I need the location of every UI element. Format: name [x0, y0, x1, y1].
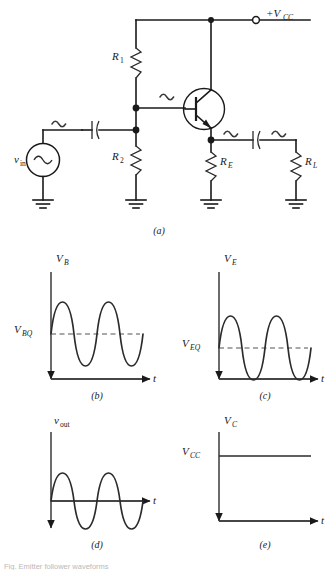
- rl-label-sub: L: [312, 161, 317, 170]
- r2-label: R: [111, 150, 119, 162]
- r2-label-sub: 2: [120, 156, 124, 165]
- input-source-label: v: [14, 153, 19, 165]
- supply-label-plus: +V: [266, 7, 281, 19]
- re-symbol: [206, 152, 216, 181]
- graph-c: V E V EQ t (c): [182, 252, 325, 402]
- panel-label-d: (d): [91, 539, 103, 551]
- graph-b-xlabel: t: [153, 372, 157, 384]
- input-source-label-sub: in: [20, 159, 26, 168]
- ground-re: [201, 200, 221, 208]
- rl-label: R: [304, 155, 312, 167]
- r1-label-sub: 1: [120, 56, 124, 65]
- graph-e-baseline-label: V: [182, 445, 190, 457]
- supply-node-dot: [208, 17, 214, 23]
- graph-d-ylabel: v: [54, 414, 59, 426]
- ac-marker-base-icon: [160, 94, 174, 100]
- panel-label-e: (e): [259, 539, 271, 551]
- graph-d-ylabel-sub: out: [60, 420, 71, 429]
- graph-b-baseline-label-sub: BQ: [22, 329, 33, 338]
- rl-symbol: [291, 152, 301, 181]
- supply-open-terminal[interactable]: [253, 17, 260, 24]
- ground-r2: [126, 200, 146, 208]
- figure-root: R 1 +V CC: [0, 0, 332, 570]
- graph-e: V C V CC t (e): [182, 414, 325, 551]
- transistor-collector-lead: [196, 90, 211, 103]
- graph-c-baseline-label-sub: EQ: [189, 343, 201, 352]
- graph-e-xlabel: t: [321, 514, 325, 526]
- panel-label-a: (a): [153, 225, 165, 237]
- re-label-sub: E: [227, 161, 233, 170]
- re-label: R: [219, 155, 227, 167]
- panel-label-b: (b): [91, 390, 103, 402]
- supply-label-sub: CC: [283, 13, 294, 22]
- graph-c-ylabel: V: [224, 252, 232, 264]
- ground-rl: [286, 200, 306, 208]
- graph-e-baseline-label-sub: CC: [190, 451, 201, 460]
- graph-c-baseline-label: V: [182, 337, 190, 349]
- graph-e-ylabel-sub: C: [232, 420, 238, 429]
- r1-symbol: [131, 48, 141, 78]
- graph-c-xlabel: t: [321, 372, 325, 384]
- figure-caption: Fig. Emitter follower waveforms: [0, 561, 332, 570]
- ac-marker-emitter-icon: [224, 131, 238, 137]
- graph-d: v out t (d): [51, 414, 157, 551]
- graph-b-ylabel-sub: B: [64, 258, 69, 267]
- ac-marker-load-icon: [272, 131, 286, 137]
- circuit-schematic: R 1 +V CC: [14, 7, 317, 237]
- graph-b-ylabel: V: [56, 252, 64, 264]
- r1-label: R: [111, 50, 119, 62]
- graph-d-xlabel: t: [153, 494, 157, 506]
- graph-c-ylabel-sub: E: [231, 258, 237, 267]
- figure-canvas: R 1 +V CC: [0, 0, 332, 570]
- graph-b: V B V BQ t (b): [14, 252, 157, 402]
- graph-b-baseline-label: V: [14, 323, 22, 335]
- r2-symbol: [131, 146, 141, 175]
- panel-label-c: (c): [259, 390, 271, 402]
- ground-source: [33, 200, 53, 208]
- ac-marker-source-icon: [52, 121, 66, 127]
- graph-e-ylabel: V: [224, 414, 232, 426]
